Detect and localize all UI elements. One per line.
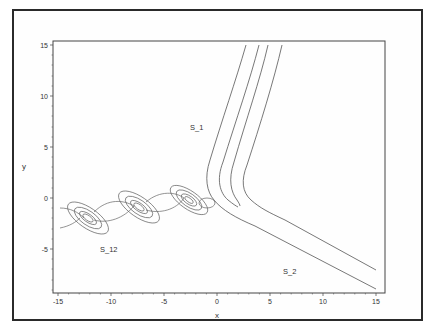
region-label-s12: S_12 [100,245,118,254]
plot-area-border [53,41,385,293]
x-tick-label: 5 [268,298,272,305]
contour-link-2 [146,193,184,211]
y-tick-label: 5 [44,144,48,151]
y-tick-label: 15 [40,42,48,49]
contour-cluster-1 [60,196,113,240]
region-label-s2: S_2 [283,267,296,276]
x-tick-label: -10 [106,298,116,305]
x-tick-label: 0 [215,298,219,305]
x-tick-label: -15 [53,298,63,305]
contour-plot: 15 10 5 0 -5 -15 -10 -5 0 5 10 15 x y S_… [0,0,436,336]
y-tick-label: 10 [40,93,48,100]
y-axis-title: y [22,162,26,171]
contour-cluster-2 [114,185,165,229]
x-tick-label: -5 [161,298,167,305]
x-tick-label: 15 [372,298,380,305]
s12-contour-clusters [60,180,215,240]
y-tick-label: -5 [42,246,48,253]
boundary-curve-inner [243,45,376,270]
region-label-s1: S_1 [190,123,203,132]
x-axis-title: x [215,311,219,320]
x-tick-label: 10 [319,298,327,305]
y-tick-label: 0 [44,195,48,202]
boundary-curve-3 [231,45,268,206]
boundary-contours [207,45,376,289]
boundary-curve-2 [219,45,259,207]
